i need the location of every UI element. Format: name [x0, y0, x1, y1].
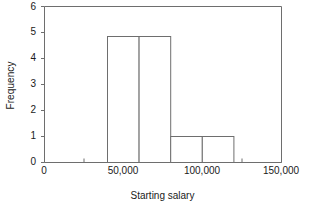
x-axis-title: Starting salary [44, 190, 281, 201]
x-tick-label: 100,000 [184, 166, 220, 176]
histogram-bar [139, 37, 171, 163]
histogram-chart: Frequency 6 5 4 3 2 1 0 [0, 0, 315, 214]
histogram-bar [108, 37, 140, 163]
x-tick-label: 50,000 [108, 166, 139, 176]
x-tick-label: 0 [41, 166, 47, 176]
x-tick-label: 150,000 [263, 166, 299, 176]
histogram-bar [171, 137, 203, 163]
y-axis-ticks [41, 7, 45, 163]
plot-area [0, 0, 315, 214]
bar-series [108, 37, 234, 163]
histogram-bar [202, 137, 234, 163]
